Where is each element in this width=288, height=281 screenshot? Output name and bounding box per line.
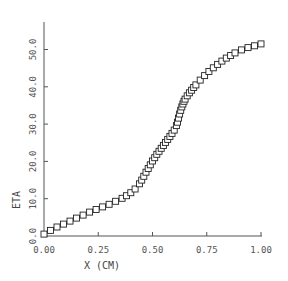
square-marker	[67, 218, 73, 224]
chart: 0.010.020.030.040.050.0 0.000.250.500.75…	[0, 0, 288, 281]
square-marker	[87, 209, 93, 215]
square-marker	[245, 45, 251, 51]
square-marker	[80, 212, 86, 218]
square-marker	[258, 41, 264, 47]
y-tick-label: 50.0	[28, 39, 38, 61]
x-tick-label: 0.75	[196, 245, 218, 255]
y-tick-label: 0.0	[28, 228, 38, 244]
data-series	[41, 41, 264, 237]
square-marker	[48, 227, 54, 233]
square-marker	[106, 201, 112, 207]
square-marker	[41, 231, 47, 237]
x-tick-label: 0.00	[33, 245, 55, 255]
x-tick-label: 0.50	[142, 245, 164, 255]
square-marker	[113, 198, 119, 204]
series-line	[44, 44, 261, 234]
square-marker	[239, 47, 245, 53]
y-tick-label: 30.0	[28, 113, 38, 135]
y-tick-label: 20.0	[28, 151, 38, 173]
square-marker	[100, 204, 106, 210]
x-axis: 0.000.250.500.751.00	[33, 232, 272, 255]
y-axis-label: ETA	[11, 191, 22, 209]
square-marker	[61, 221, 67, 227]
y-axis: 0.010.020.030.040.050.0	[28, 22, 48, 244]
square-marker	[93, 207, 99, 213]
x-tick-label: 1.00	[250, 245, 272, 255]
square-marker	[54, 224, 60, 230]
square-marker	[252, 43, 258, 49]
square-marker	[74, 215, 80, 221]
y-tick-label: 40.0	[28, 76, 38, 98]
x-ticks: 0.000.250.500.751.00	[33, 232, 272, 255]
y-tick-label: 10.0	[28, 188, 38, 210]
square-marker	[232, 50, 238, 56]
y-ticks: 0.010.020.030.040.050.0	[28, 39, 48, 244]
x-tick-label: 0.25	[87, 245, 109, 255]
x-axis-label: X (CM)	[84, 260, 120, 271]
